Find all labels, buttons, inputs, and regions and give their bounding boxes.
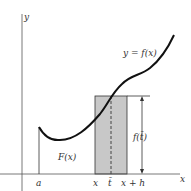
tick-t-bar: t̄ — [108, 177, 112, 188]
arrow-down-icon — [140, 169, 144, 174]
x-axis-label: x — [180, 174, 185, 184]
tick-x: x — [93, 178, 98, 188]
arrow-up-icon — [140, 96, 144, 101]
area-label: F(x) — [57, 152, 77, 162]
integral-diagram: y x y = f(x) F(x) f(t̄) a x t̄ x + h — [0, 0, 191, 191]
height-label: f(t̄) — [132, 131, 147, 142]
tick-a: a — [36, 178, 41, 188]
tick-x-plus-h: x + h — [121, 178, 145, 188]
curve-label: y = f(x) — [122, 48, 157, 58]
y-axis-label: y — [23, 12, 30, 22]
